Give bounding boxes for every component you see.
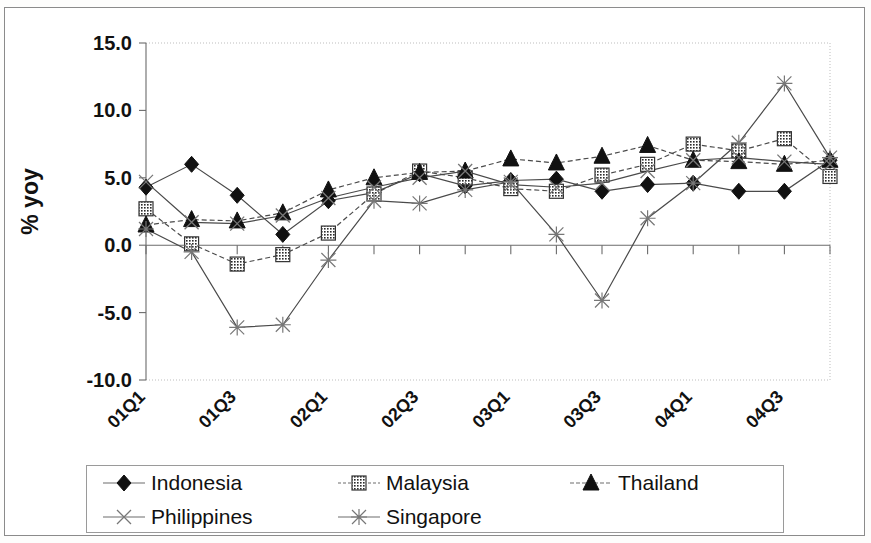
x-axis-tick-label: 04Q3 <box>742 387 787 432</box>
marker-asterisk <box>351 509 367 525</box>
legend-label: Thailand <box>618 471 699 495</box>
figure-canvas: 15.010.05.00.0-5.0-10.001Q101Q302Q102Q30… <box>0 0 871 543</box>
asterisk-icon <box>336 507 382 527</box>
marker-triangle <box>184 211 200 227</box>
marker-asterisk <box>685 175 701 191</box>
marker-asterisk <box>503 174 519 190</box>
marker-square <box>686 137 700 151</box>
marker-diamond <box>641 177 655 193</box>
marker-triangle <box>685 151 701 167</box>
marker-diamond <box>777 183 791 199</box>
y-axis-tick-label: 5.0 <box>104 167 132 189</box>
marker-square <box>641 157 655 171</box>
marker-square <box>139 202 153 216</box>
filled-square-icon <box>336 473 382 493</box>
marker-square <box>823 169 837 183</box>
legend-label: Singapore <box>386 505 482 529</box>
y-axis-tick-label: 15.0 <box>93 32 132 54</box>
y-axis-tick-label: -10.0 <box>86 369 132 391</box>
series-line <box>146 158 830 224</box>
series-line <box>146 160 830 234</box>
marker-triangle <box>275 204 291 220</box>
filled-diamond-icon <box>101 473 147 493</box>
y-axis-tick-label: 10.0 <box>93 99 132 121</box>
line-chart-plot: 15.010.05.00.0-5.0-10.001Q101Q302Q102Q30… <box>0 0 871 543</box>
legend-item-thailand[interactable]: Thailand <box>568 471 799 495</box>
cross-x-icon <box>101 507 147 527</box>
marker-triangle <box>640 136 656 152</box>
marker-asterisk <box>548 226 564 242</box>
marker-triangle <box>503 150 519 166</box>
marker-asterisk <box>366 193 382 209</box>
x-axis-tick-label: 03Q3 <box>560 387 605 432</box>
marker-square <box>321 226 335 240</box>
marker-asterisk <box>457 182 473 198</box>
marker-diamond <box>185 156 199 172</box>
y-axis-tick-label: -5.0 <box>98 302 132 324</box>
legend-item-indonesia[interactable]: Indonesia <box>101 471 336 495</box>
series-line <box>146 145 830 225</box>
x-axis-tick-label: 02Q1 <box>286 387 331 432</box>
marker-asterisk <box>138 221 154 237</box>
marker-asterisk <box>412 195 428 211</box>
marker-triangle <box>457 162 473 178</box>
legend-item-malaysia[interactable]: Malaysia <box>336 471 568 495</box>
y-axis-tick-label: 0.0 <box>104 234 132 256</box>
marker-asterisk <box>640 210 656 226</box>
chart-legend: IndonesiaMalaysiaThailandPhilippinesSing… <box>86 465 784 533</box>
marker-diamond <box>732 183 746 199</box>
y-axis-title: % yoy <box>17 168 43 235</box>
series-philippines <box>146 158 830 224</box>
x-axis-tick-label: 02Q3 <box>377 387 422 432</box>
marker-asterisk <box>822 150 838 166</box>
marker-asterisk <box>275 317 291 333</box>
marker-asterisk <box>229 319 245 335</box>
x-axis-tick-label: 04Q1 <box>651 387 696 432</box>
marker-square <box>595 168 609 182</box>
series-markers-singapore <box>138 75 838 335</box>
marker-square <box>276 248 290 262</box>
marker-square <box>777 132 791 146</box>
legend-item-singapore[interactable]: Singapore <box>336 505 568 529</box>
x-axis-tick-label: 03Q1 <box>468 387 513 432</box>
marker-diamond <box>230 187 244 203</box>
marker-diamond <box>595 183 609 199</box>
filled-triangle-icon <box>568 473 614 493</box>
x-axis-tick-label: 01Q1 <box>104 387 149 432</box>
marker-asterisk <box>731 135 747 151</box>
marker-asterisk <box>184 244 200 260</box>
marker-triangle <box>583 474 599 490</box>
legend-item-philippines[interactable]: Philippines <box>101 505 336 529</box>
legend-label: Malaysia <box>386 471 469 495</box>
marker-square <box>352 476 366 490</box>
marker-square <box>230 257 244 271</box>
legend-label: Philippines <box>151 505 253 529</box>
series-thailand <box>146 145 830 225</box>
marker-asterisk <box>776 75 792 91</box>
marker-diamond <box>276 226 290 242</box>
marker-asterisk <box>594 292 610 308</box>
legend-label: Indonesia <box>151 471 242 495</box>
marker-diamond <box>117 475 131 491</box>
marker-asterisk <box>320 252 336 268</box>
series-indonesia <box>146 160 830 234</box>
x-axis-tick-label: 01Q3 <box>195 387 240 432</box>
